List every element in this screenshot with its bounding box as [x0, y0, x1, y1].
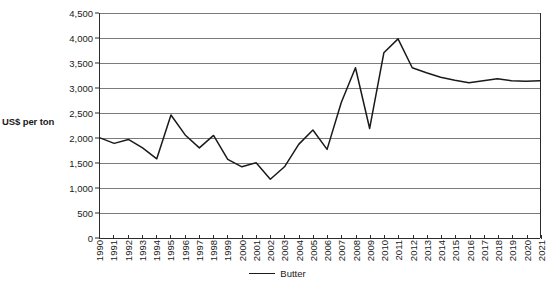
x-tick-mark-2017 — [484, 235, 485, 239]
x-tick-mark-1999 — [227, 235, 228, 239]
y-tick-label-3000: 3,000 — [52, 83, 93, 94]
x-tick-mark-2021 — [541, 235, 542, 239]
y-tick-label-2000: 2,000 — [52, 133, 93, 144]
x-tick-mark-2013 — [427, 235, 428, 239]
x-tick-mark-2008 — [356, 235, 357, 239]
x-tick-mark-2000 — [242, 235, 243, 239]
x-tick-mark-2011 — [398, 235, 399, 239]
x-tick-label-2009: 2009 — [365, 240, 376, 261]
x-tick-label-2002: 2002 — [265, 240, 276, 261]
x-tick-mark-2003 — [284, 235, 285, 239]
x-tick-mark-1991 — [113, 235, 114, 239]
x-tick-label-2001: 2001 — [251, 240, 262, 261]
x-tick-mark-2019 — [512, 235, 513, 239]
x-tick-label-2020: 2020 — [522, 240, 533, 261]
x-tick-label-1996: 1996 — [180, 240, 191, 261]
chart-figure: US$ per ton 05001,0001,5002,0002,5003,00… — [0, 0, 555, 295]
x-tick-mark-2020 — [527, 235, 528, 239]
x-tick-label-1994: 1994 — [151, 240, 162, 261]
x-tick-mark-2001 — [256, 235, 257, 239]
x-tick-label-1990: 1990 — [94, 240, 105, 261]
x-tick-mark-2012 — [413, 235, 414, 239]
series-layer — [100, 13, 540, 237]
y-tick-label-4500: 4,500 — [52, 8, 93, 19]
y-axis-tick-labels: 05001,0001,5002,0002,5003,0003,5004,0004… — [52, 13, 93, 238]
x-tick-mark-1996 — [185, 235, 186, 239]
x-tick-label-1999: 1999 — [222, 240, 233, 261]
x-tick-label-2000: 2000 — [237, 240, 248, 261]
y-tick-label-4000: 4,000 — [52, 33, 93, 44]
x-tick-mark-2016 — [470, 235, 471, 239]
x-tick-mark-2006 — [327, 235, 328, 239]
x-tick-label-2011: 2011 — [393, 240, 404, 260]
x-tick-label-2008: 2008 — [351, 240, 362, 261]
legend-label-butter: Butter — [280, 268, 305, 279]
x-tick-label-2010: 2010 — [379, 240, 390, 261]
x-tick-label-2014: 2014 — [436, 240, 447, 261]
x-tick-mark-2010 — [384, 235, 385, 239]
y-tick-label-1000: 1,000 — [52, 183, 93, 194]
x-tick-mark-1992 — [128, 235, 129, 239]
x-tick-mark-1998 — [213, 235, 214, 239]
x-tick-label-1992: 1992 — [123, 240, 134, 261]
y-tick-label-3500: 3,500 — [52, 58, 93, 69]
x-tick-label-2015: 2015 — [450, 240, 461, 261]
x-tick-mark-2014 — [441, 235, 442, 239]
x-tick-label-2021: 2021 — [536, 240, 547, 261]
x-tick-label-2019: 2019 — [507, 240, 518, 261]
x-tick-label-2006: 2006 — [322, 240, 333, 261]
x-tick-label-2017: 2017 — [479, 240, 490, 261]
x-tick-label-1998: 1998 — [208, 240, 219, 261]
x-tick-mark-1995 — [170, 235, 171, 239]
x-tick-label-2007: 2007 — [336, 240, 347, 261]
y-tick-label-500: 500 — [52, 208, 93, 219]
x-tick-mark-2007 — [341, 235, 342, 239]
x-tick-label-1997: 1997 — [194, 240, 205, 261]
x-tick-mark-1990 — [99, 235, 100, 239]
line-series-butter — [100, 39, 540, 179]
x-tick-mark-1993 — [142, 235, 143, 239]
x-tick-label-1991: 1991 — [108, 240, 119, 261]
y-tick-label-2500: 2,500 — [52, 108, 93, 119]
x-tick-mark-2018 — [498, 235, 499, 239]
x-tick-label-2016: 2016 — [465, 240, 476, 261]
x-tick-mark-2015 — [455, 235, 456, 239]
x-tick-label-2005: 2005 — [308, 240, 319, 261]
x-tick-mark-2004 — [299, 235, 300, 239]
x-tick-label-1995: 1995 — [165, 240, 176, 261]
x-tick-label-1993: 1993 — [137, 240, 148, 261]
x-tick-label-2012: 2012 — [408, 240, 419, 261]
legend-line-marker-butter — [249, 273, 275, 274]
x-tick-label-2004: 2004 — [294, 240, 305, 261]
x-tick-mark-2005 — [313, 235, 314, 239]
plot-area — [99, 13, 541, 238]
x-tick-mark-1994 — [156, 235, 157, 239]
x-tick-mark-1997 — [199, 235, 200, 239]
x-tick-label-2013: 2013 — [422, 240, 433, 261]
x-tick-mark-2002 — [270, 235, 271, 239]
y-tick-label-0: 0 — [52, 233, 93, 244]
x-tick-mark-2009 — [370, 235, 371, 239]
chart-legend: Butter — [0, 268, 555, 279]
y-tick-label-1500: 1,500 — [52, 158, 93, 169]
x-tick-label-2003: 2003 — [279, 240, 290, 261]
x-tick-label-2018: 2018 — [493, 240, 504, 261]
